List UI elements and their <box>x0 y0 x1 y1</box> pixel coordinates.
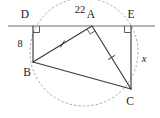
right-angle-marks-layer <box>33 26 131 34</box>
geometry-canvas: DAEBC 228x <box>0 0 160 118</box>
vertex-label-E: E <box>127 8 134 20</box>
measure-label-arc-DE: 22 <box>75 4 86 15</box>
congruence-tick-on-AC <box>108 56 114 60</box>
dashed-arc-layer <box>30 0 138 106</box>
vertex-label-A: A <box>87 8 96 20</box>
vertex-label-C: C <box>126 95 134 107</box>
geometry-diagram: DAEBC 228x <box>0 0 160 118</box>
congruence-tick-on-AB <box>61 41 65 47</box>
vertex-label-D: D <box>21 8 29 20</box>
measure-label-EC: x <box>141 53 147 64</box>
right-angle-at-E <box>125 26 132 33</box>
circumscribing-dashed-arc <box>30 0 138 106</box>
measure-label-DB: 8 <box>17 38 22 49</box>
vertex-labels-layer: DAEBC <box>21 8 135 107</box>
vertex-label-B: B <box>23 66 31 78</box>
